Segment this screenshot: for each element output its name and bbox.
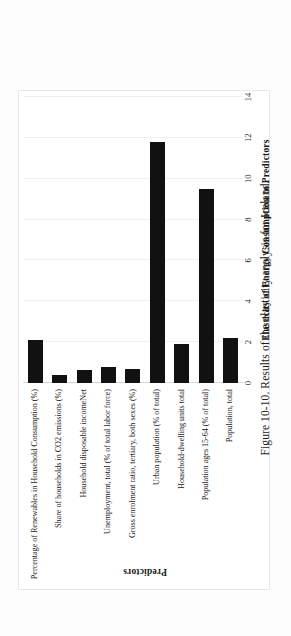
bar-row [101, 97, 116, 383]
category-label: Population, total [223, 385, 238, 559]
y-axis-title: Predictors [19, 563, 271, 581]
figure-caption-text: Figure 10-10. Results of the elasticity … [258, 180, 270, 455]
bar [199, 189, 214, 383]
category-label: Unemployment, total (% of total labor fo… [101, 385, 116, 559]
bar-series [23, 97, 243, 383]
category-label: Gross enrolment ratio, tertiary, both se… [125, 385, 140, 559]
bar-row [199, 97, 214, 383]
bar-row [174, 97, 189, 383]
bar [223, 338, 238, 383]
bar-row [150, 97, 165, 383]
bar [125, 369, 140, 383]
category-label: Percentage of Renewables in Household Co… [28, 385, 43, 559]
category-label: Population ages 15-64 (% of total) [199, 385, 214, 559]
category-label: Share of households in CO2 emissions (%) [52, 385, 67, 559]
bar-row [223, 97, 238, 383]
bar [28, 340, 43, 383]
bar [101, 367, 116, 383]
bar-row [125, 97, 140, 383]
bar [150, 142, 165, 383]
category-label: Household-dwelling units total [174, 385, 189, 559]
bar [77, 370, 92, 383]
chart-frame: Predictors Percentage of Renewables in H… [18, 90, 270, 590]
bar-row [52, 97, 67, 383]
category-label: Urban population (% of total) [150, 385, 165, 559]
figure-page: Predictors Percentage of Renewables in H… [0, 0, 291, 636]
bar-row [77, 97, 92, 383]
plot-area-wrapper [23, 97, 243, 383]
bar-row [28, 97, 43, 383]
bar [52, 375, 67, 383]
figure-caption: Figure 10-10. Results of the elasticity … [247, 0, 281, 636]
plot-area [23, 97, 243, 383]
category-label: Household disposable incomeNet [77, 385, 92, 559]
category-axis-labels: Percentage of Renewables in Household Co… [23, 385, 243, 559]
y-axis-title-text: Predictors [123, 567, 167, 577]
bar [174, 344, 189, 383]
